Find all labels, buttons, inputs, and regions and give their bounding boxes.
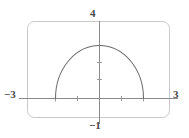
y-min-label: −1 — [89, 120, 101, 131]
x-min-label: −3 — [4, 89, 16, 100]
y-max-label: 4 — [90, 8, 96, 19]
viewing-window-frame — [28, 22, 170, 118]
graph-screenshot: 4 −1 −3 3 — [0, 0, 189, 138]
graph-canvas — [0, 0, 189, 138]
x-max-label: 3 — [173, 89, 179, 100]
